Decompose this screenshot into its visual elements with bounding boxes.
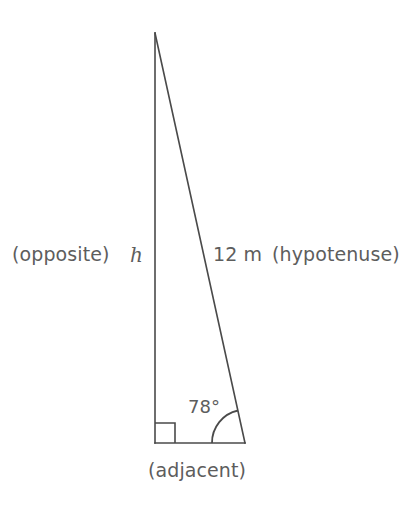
hypotenuse-value-label: 12 m [213, 245, 262, 264]
right-angle-marker [155, 423, 175, 443]
opposite-side-value-label: h [130, 245, 143, 265]
hypotenuse-label: (hypotenuse) [272, 245, 400, 264]
adjacent-side-label: (adjacent) [148, 461, 246, 480]
hypotenuse-line [155, 33, 245, 443]
angle-measure-label: 78° [188, 398, 220, 416]
trigonometry-figure: (opposite) h 12 m (hypotenuse) 78° (adja… [0, 0, 413, 509]
opposite-side-label: (opposite) [12, 245, 110, 264]
